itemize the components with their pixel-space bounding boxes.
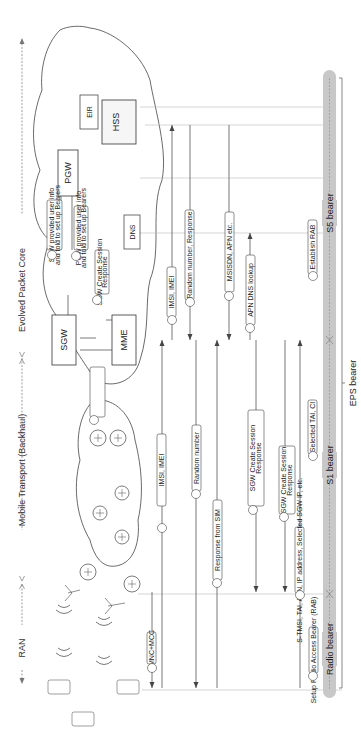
step-2: IMSI, IMEI bbox=[157, 434, 166, 506]
svg-text:EIR: EIR bbox=[86, 106, 93, 118]
svg-text:DNS: DNS bbox=[129, 224, 136, 239]
cell-tower-icons bbox=[65, 585, 125, 614]
step-3: IMSI, IMEI bbox=[167, 267, 176, 317]
s5-bearer-label: S5 bearer bbox=[325, 193, 335, 233]
step-8: 8 APN DNS lookup bbox=[246, 255, 255, 325]
svg-text:Selected TAI, CI: Selected TAI, CI bbox=[309, 402, 316, 452]
svg-text:MSISDN, APN etc.: MSISDN, APN etc. bbox=[226, 223, 233, 281]
node-hss: HSS bbox=[102, 100, 136, 144]
lte-attach-diagram: Evolved Packet Core Mobile Transport (Ba… bbox=[0, 0, 361, 738]
step-14-rab: Setup Radio Access Bearer (RAB) bbox=[309, 597, 318, 704]
backhaul-cloud bbox=[76, 400, 141, 566]
step-1: MNC+MCC bbox=[147, 630, 156, 666]
step-6: Response from SIM bbox=[213, 500, 222, 580]
section-label-epc: Evolved Packet Core bbox=[17, 248, 27, 332]
ue-device-icons bbox=[48, 680, 139, 726]
svg-text:Response: Response bbox=[101, 256, 109, 288]
svg-text:PGW: PGW bbox=[63, 162, 73, 184]
s1-bearer-label: S1 bearer bbox=[325, 445, 335, 485]
svg-text:Response: Response bbox=[255, 442, 263, 474]
node-mme: MME bbox=[112, 315, 136, 365]
step-9a bbox=[90, 367, 105, 417]
node-dns: DNS bbox=[124, 215, 140, 249]
step-14-s5: Establish RAB bbox=[308, 220, 317, 274]
svg-text:Establish RAB: Establish RAB bbox=[309, 224, 316, 269]
message-arrowheads bbox=[150, 125, 303, 688]
node-pgw: PGW bbox=[58, 150, 78, 196]
node-eir: EIR bbox=[80, 95, 98, 129]
svg-text:S-TMSI, TAI, APN, IP address,: S-TMSI, TAI, APN, IP address, Selected S… bbox=[296, 477, 303, 643]
message-lines bbox=[152, 125, 300, 688]
svg-text:Response: Response bbox=[286, 464, 294, 496]
section-label-mobile-transport: Mobile Transport (Backhaul) bbox=[17, 414, 27, 527]
step-5: Random number bbox=[192, 425, 201, 491]
svg-text:and told to set up Bearers: and told to set up Bearers bbox=[80, 187, 88, 268]
svg-text:Response from SIM: Response from SIM bbox=[214, 509, 222, 571]
step-14-s1: Selected TAI, CI bbox=[308, 400, 317, 454]
svg-text:APN DNS lookup: APN DNS lookup bbox=[247, 263, 255, 317]
svg-text:Setup Radio Access Bearer (RAB: Setup Radio Access Bearer (RAB) bbox=[310, 597, 318, 704]
step-11: SGW Create Session Response bbox=[248, 410, 264, 506]
step-7: MSISDN, APN etc. bbox=[225, 212, 234, 292]
radio-wave-icons bbox=[56, 605, 112, 665]
step-12: SGW Create Session Response bbox=[279, 446, 295, 514]
eps-bracket bbox=[339, 78, 345, 688]
node-sgw: SGW bbox=[52, 315, 76, 365]
svg-text:MNC+MCC: MNC+MCC bbox=[148, 630, 155, 666]
svg-text:SGW: SGW bbox=[59, 329, 69, 351]
radio-bearer-label: Radio bearer bbox=[325, 623, 335, 675]
step-13: S-TMSI, TAI, APN, IP address, Selected S… bbox=[295, 477, 304, 643]
svg-text:IMSI, IMEI: IMSI, IMEI bbox=[168, 276, 175, 309]
svg-text:Random number: Random number bbox=[193, 431, 200, 484]
section-label-ran: RAN bbox=[17, 638, 27, 657]
svg-text:Random number, Response: Random number, Response bbox=[186, 211, 194, 298]
svg-text:HSS: HSS bbox=[111, 113, 121, 132]
step-4: Random number, Response bbox=[185, 210, 194, 300]
svg-text:MME: MME bbox=[119, 330, 129, 351]
eps-bearer-label: EPS bearer bbox=[348, 360, 358, 407]
svg-text:IMSI, IMEI: IMSI, IMEI bbox=[158, 454, 165, 487]
